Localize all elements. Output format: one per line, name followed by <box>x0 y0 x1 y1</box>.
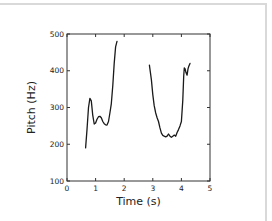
x-tick-label: 5 <box>208 184 213 193</box>
y-tick-label: 100 <box>50 177 65 186</box>
pitch-line-segment-2 <box>149 63 190 137</box>
pitch-line-chart: 012345 100200300400500 Time (s) Pitch (H… <box>0 0 272 221</box>
pitch-contour-lines <box>86 41 190 148</box>
x-tick-labels: 012345 <box>65 184 213 193</box>
y-tick-labels: 100200300400500 <box>50 30 65 186</box>
y-tick-label: 300 <box>50 103 65 112</box>
x-tick-label: 1 <box>93 184 98 193</box>
y-tick-label: 400 <box>50 66 65 75</box>
x-axis-label: Time (s) <box>115 195 161 208</box>
pitch-chart-figure: 012345 100200300400500 Time (s) Pitch (H… <box>0 0 272 221</box>
x-tick-label: 4 <box>179 184 184 193</box>
y-axis-label: Pitch (Hz) <box>25 81 38 134</box>
image-border-right <box>265 3 267 221</box>
y-tick-label: 200 <box>50 140 65 149</box>
pitch-line-segment-1 <box>86 41 117 148</box>
x-tick-label: 0 <box>65 184 70 193</box>
x-tick-label: 3 <box>150 184 155 193</box>
x-tick-label: 2 <box>122 184 127 193</box>
y-tick-label: 500 <box>50 30 65 39</box>
image-border-top <box>0 3 267 5</box>
